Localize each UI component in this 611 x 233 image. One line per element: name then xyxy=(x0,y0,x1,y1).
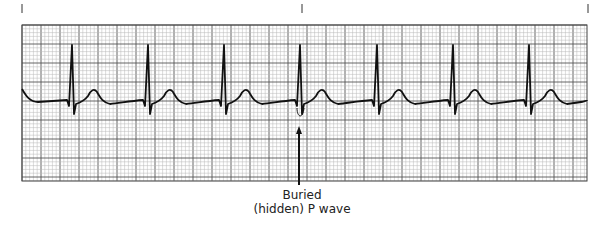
annotation-line-2: (hidden) P wave xyxy=(250,202,354,216)
annotation-line-1: Buried xyxy=(250,188,354,202)
arrow xyxy=(296,126,302,185)
time-markers xyxy=(22,4,588,13)
